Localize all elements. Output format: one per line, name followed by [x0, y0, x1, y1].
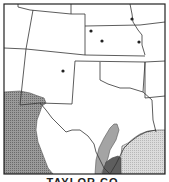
record-dot: [130, 17, 133, 20]
range-map: [0, 0, 169, 182]
map-caption: TAYLOR CO.: [0, 177, 169, 182]
record-dot: [100, 39, 103, 42]
record-dot: [89, 29, 92, 32]
record-dot: [137, 40, 140, 43]
record-dot: [61, 69, 64, 72]
